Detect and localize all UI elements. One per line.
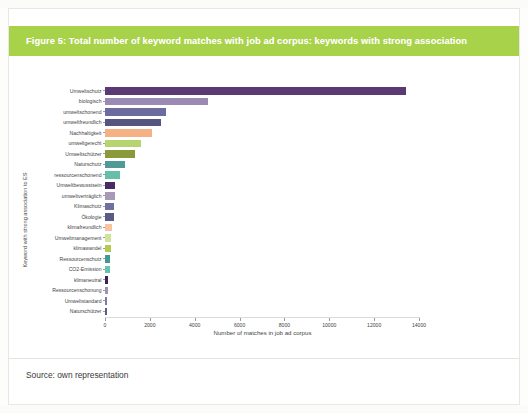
- figure-title: Figure 5: Total number of keyword matche…: [9, 36, 467, 46]
- y-axis-tick-label: umweltverträglich: [62, 192, 102, 201]
- bar-row: klimafreundlich: [105, 223, 419, 234]
- x-axis-tick-label: 10000: [322, 322, 336, 328]
- x-tick-mark: [374, 318, 375, 321]
- bar-row: umweltfreundlich: [105, 118, 419, 129]
- bar-row: biologisch: [105, 97, 419, 108]
- y-axis-tick-label: Naturschutz: [74, 160, 101, 169]
- x-axis-tick-label: 6000: [234, 322, 245, 328]
- y-axis-tick-label: Umweltbewusstsein: [56, 181, 101, 190]
- bar-row: Ökologie: [105, 212, 419, 223]
- bar: [105, 203, 114, 211]
- bar: [105, 213, 114, 221]
- bar: [105, 276, 108, 284]
- bar-row: Ressourcenschutz: [105, 254, 419, 265]
- bar: [105, 119, 161, 127]
- y-axis-tick-label: klimaneutral: [74, 276, 101, 285]
- bar: [105, 287, 108, 295]
- y-axis-tick-label: umweltgerecht: [68, 139, 101, 148]
- bar: [105, 192, 115, 200]
- source-divider: [9, 358, 519, 359]
- bar-row: Nachhaltigkeit: [105, 128, 419, 139]
- y-axis-tick-label: Ressourcenschonung: [52, 286, 101, 295]
- bar-row: Umweltbewusstsein: [105, 181, 419, 192]
- y-axis-tick-label: Umweltschutz: [70, 87, 102, 96]
- figure-page: Figure 5: Total number of keyword matche…: [0, 0, 528, 413]
- bar: [105, 129, 152, 137]
- y-axis-tick-label: umweltfreundlich: [63, 118, 101, 127]
- bar-row: Naturschutz: [105, 160, 419, 171]
- bar-row: Umweltstandard: [105, 296, 419, 307]
- x-tick-mark: [284, 318, 285, 321]
- bar-row: umweltgerecht: [105, 139, 419, 150]
- bar-row: umweltschonend: [105, 107, 419, 118]
- y-axis-tick-label: Klimaschutz: [74, 202, 101, 211]
- y-axis-tick-label: Nachhaltigkeit: [70, 129, 102, 138]
- y-axis-tick-label: Umweltschützer: [65, 150, 101, 159]
- x-tick-mark: [419, 318, 420, 321]
- y-axis-tick-label: ressourcenschonend: [54, 171, 101, 180]
- y-axis-tick-label: klimawandel: [73, 244, 101, 253]
- bar-row: klimaneutral: [105, 275, 419, 286]
- bar-row: umweltverträglich: [105, 191, 419, 202]
- bar: [105, 171, 120, 179]
- bar: [105, 161, 125, 169]
- page-bottom-margin: [0, 405, 528, 413]
- y-axis-title-text: Keyword with strong association to ES: [22, 140, 28, 300]
- bar-row: klimawandel: [105, 244, 419, 255]
- y-axis-tick-label: Naturschützer: [70, 307, 102, 316]
- bar: [105, 308, 107, 316]
- plot-area: Umweltschutzbiologischumweltschonendumwe…: [105, 86, 419, 317]
- x-axis-tick-label: 14000: [412, 322, 426, 328]
- y-axis-tick-label: Ökologie: [81, 213, 101, 222]
- x-tick-mark: [150, 318, 151, 321]
- bar: [105, 297, 107, 305]
- y-axis-tick-label: umweltschonend: [63, 108, 101, 117]
- bar: [105, 245, 111, 253]
- bar-row: Ressourcenschonung: [105, 286, 419, 297]
- bar: [105, 108, 166, 116]
- x-axis-tick-label: 8000: [279, 322, 290, 328]
- y-axis-tick-label: biologisch: [79, 97, 102, 106]
- bar-row: Umweltmanagement: [105, 233, 419, 244]
- page-top-margin: [0, 0, 528, 8]
- x-axis-tick-label: 4000: [189, 322, 200, 328]
- x-tick-mark: [195, 318, 196, 321]
- bar: [105, 182, 115, 190]
- y-axis-tick-label: CO2-Emission: [69, 265, 102, 274]
- bar-row: CO2-Emission: [105, 265, 419, 276]
- y-axis-tick-label: Ressourcenschutz: [60, 255, 102, 264]
- source-note: Source: own representation: [26, 370, 128, 380]
- bar: [105, 98, 208, 106]
- x-tick-mark: [240, 318, 241, 321]
- x-tick-mark: [329, 318, 330, 321]
- bar: [105, 140, 141, 148]
- bar: [105, 150, 135, 158]
- y-axis-title: Keyword with strong association to ES: [22, 0, 28, 140]
- figure-title-banner: Figure 5: Total number of keyword matche…: [9, 26, 519, 56]
- y-axis-tick-label: klimafreundlich: [68, 223, 102, 232]
- x-axis-tick-label: 12000: [367, 322, 381, 328]
- bar-row: Naturschützer: [105, 307, 419, 318]
- y-axis-tick-label: Umweltstandard: [65, 297, 102, 306]
- x-axis-tick-label: 2000: [144, 322, 155, 328]
- bar-row: Umweltschutz: [105, 86, 419, 97]
- bar-row: ressourcenschonend: [105, 170, 419, 181]
- bar-row: Umweltschützer: [105, 149, 419, 160]
- bar: [105, 234, 111, 242]
- bar: [105, 224, 112, 232]
- bar-row: Klimaschutz: [105, 202, 419, 213]
- bar: [105, 255, 110, 263]
- bar: [105, 87, 406, 95]
- bar: [105, 266, 110, 274]
- x-axis-tick-label: 0: [104, 322, 107, 328]
- y-axis-tick-label: Umweltmanagement: [55, 234, 102, 243]
- x-tick-mark: [105, 318, 106, 321]
- x-axis-title: Number of matches in job ad corpus: [105, 329, 420, 336]
